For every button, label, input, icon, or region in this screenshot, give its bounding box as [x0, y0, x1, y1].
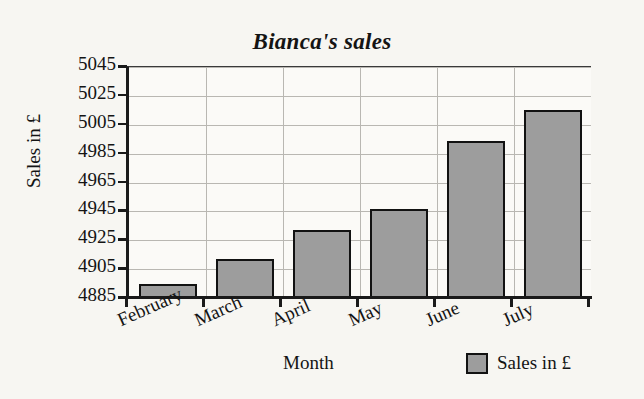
- y-axis-tick-label: 4925: [46, 226, 116, 248]
- x-axis-label-april: April: [268, 295, 314, 331]
- bar-april[interactable]: [293, 230, 351, 298]
- gridline-vertical: [437, 67, 438, 298]
- y-axis-tick-label: 4945: [46, 197, 116, 219]
- y-axis-tick-mark: [118, 238, 127, 241]
- legend-swatch-sales: [466, 353, 488, 374]
- y-axis-tick-label: 4985: [46, 140, 116, 162]
- y-axis-tick-label: 4885: [46, 284, 116, 306]
- gridline-vertical: [514, 67, 515, 298]
- bar-july[interactable]: [524, 110, 582, 298]
- y-axis-tick-labels: 488549054925494549654985500550255045: [42, 0, 116, 399]
- gridline-vertical: [206, 67, 207, 298]
- y-axis-tick-mark: [118, 123, 127, 126]
- y-axis-tick-label: 5045: [46, 53, 116, 75]
- y-axis-tick-mark: [118, 267, 127, 270]
- y-axis-tick-label: 5025: [46, 82, 116, 104]
- x-axis-title: Month: [283, 352, 334, 374]
- x-axis-label-july: July: [499, 298, 537, 331]
- x-axis-tick-mark: [587, 299, 590, 307]
- y-axis-tick-mark: [118, 181, 127, 184]
- bar-june[interactable]: [447, 141, 505, 298]
- y-axis-tick-mark: [118, 209, 127, 212]
- x-axis-label-may: May: [345, 297, 386, 331]
- y-axis-tick-mark: [118, 94, 127, 97]
- gridline-vertical: [360, 67, 361, 298]
- plot-area: [126, 66, 591, 298]
- plot-inner: [129, 67, 591, 298]
- bar-march[interactable]: [216, 259, 274, 298]
- y-axis-tick-label: 5005: [46, 111, 116, 133]
- chart-figure: Bianca's sales Sales in £ 48854905492549…: [0, 0, 644, 399]
- bar-may[interactable]: [370, 209, 428, 299]
- gridline-vertical: [283, 67, 284, 298]
- y-axis-tick-label: 4965: [46, 169, 116, 191]
- y-axis-tick-mark: [118, 152, 127, 155]
- legend-label-sales: Sales in £: [497, 352, 571, 374]
- x-axis-label-june: June: [422, 297, 463, 331]
- chart-legend: Sales in £: [466, 352, 571, 374]
- y-axis-tick-mark: [118, 65, 127, 68]
- y-axis-tick-label: 4905: [46, 255, 116, 277]
